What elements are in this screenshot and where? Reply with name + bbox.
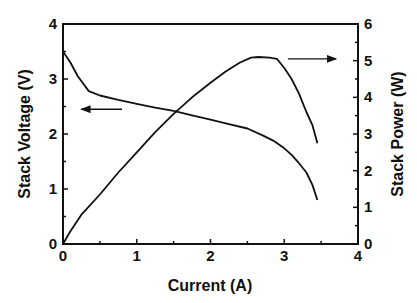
plot-frame	[63, 24, 358, 244]
y-tick-label-left: 1	[49, 180, 57, 197]
y-tick-label-right: 0	[364, 235, 372, 252]
y-axis-title-left: Stack Voltage (V)	[16, 69, 33, 199]
y-tick-label-right: 4	[364, 88, 373, 105]
x-axis-title: Current (A)	[168, 277, 252, 294]
y-tick-label-right: 1	[364, 198, 372, 215]
tick-labels: 01234012340123456	[49, 15, 373, 264]
y-tick-label-right: 5	[364, 52, 372, 69]
dual-axis-line-chart: 01234012340123456 Current (A) Stack Volt…	[0, 0, 417, 303]
data-series	[63, 52, 317, 245]
y-tick-label-right: 2	[364, 162, 372, 179]
x-tick-label: 0	[59, 247, 67, 264]
y-axis-title-right: Stack Power (W)	[389, 71, 406, 196]
y-tick-label-left: 4	[49, 15, 58, 32]
y-tick-label-left: 3	[49, 70, 57, 87]
plot-border	[63, 24, 358, 244]
y-tick-label-right: 6	[364, 15, 372, 32]
y-tick-label-left: 0	[49, 235, 57, 252]
x-tick-label: 1	[133, 247, 141, 264]
y-tick-label-left: 2	[49, 125, 57, 142]
y-tick-label-right: 3	[364, 125, 372, 142]
x-tick-label: 4	[354, 247, 363, 264]
x-tick-label: 2	[206, 247, 214, 264]
voltage-curve	[63, 52, 317, 201]
x-tick-label: 3	[280, 247, 288, 264]
power-curve	[63, 57, 317, 244]
axis-ticks	[63, 24, 358, 244]
